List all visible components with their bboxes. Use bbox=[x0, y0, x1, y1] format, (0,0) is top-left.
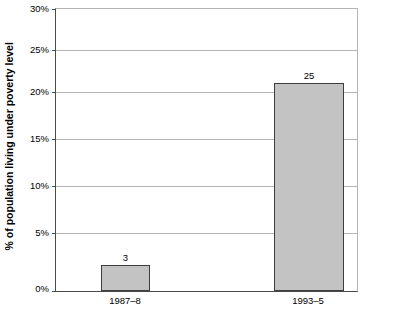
y-tickmark-0 bbox=[52, 291, 56, 292]
y-tick-label-30: 30% bbox=[30, 4, 49, 14]
bar-value-1987-8: 3 bbox=[101, 253, 150, 263]
gridline-25 bbox=[56, 50, 357, 51]
plot-area: 3 25 bbox=[55, 8, 358, 292]
y-tickmark-25 bbox=[52, 50, 56, 51]
x-tick-label-1987-8: 1987–8 bbox=[109, 296, 141, 306]
y-tick-label-0: 0% bbox=[35, 284, 49, 294]
y-tick-label-15: 15% bbox=[30, 134, 49, 144]
y-tickmark-10 bbox=[52, 186, 56, 187]
y-tick-label-10: 10% bbox=[30, 181, 49, 191]
bar-value-1993-5: 25 bbox=[274, 71, 344, 81]
bar-chart: % of population living under poverty lev… bbox=[0, 0, 394, 310]
y-axis-tick-labels: 30% 25% 20% 15% 10% 5% 0% bbox=[18, 0, 52, 300]
y-axis-title-label: % of population living under poverty lev… bbox=[4, 42, 15, 250]
y-tick-label-25: 25% bbox=[30, 45, 49, 55]
y-tickmark-30 bbox=[52, 9, 56, 10]
y-axis-title: % of population living under poverty lev… bbox=[0, 0, 18, 292]
y-tick-label-20: 20% bbox=[30, 87, 49, 97]
y-tick-label-5: 5% bbox=[35, 228, 49, 238]
bar-1993-5[interactable] bbox=[274, 83, 344, 291]
y-tickmark-20 bbox=[52, 92, 56, 93]
y-tickmark-15 bbox=[52, 139, 56, 140]
bar-1987-8[interactable] bbox=[101, 265, 150, 291]
x-tick-label-1993-5: 1993–5 bbox=[292, 296, 324, 306]
y-tickmark-5 bbox=[52, 233, 56, 234]
x-axis-tick-labels: 1987–8 1993–5 bbox=[55, 294, 359, 310]
